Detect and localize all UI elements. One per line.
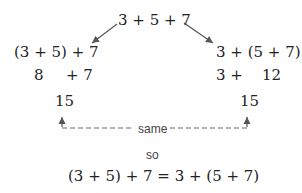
so-label: so xyxy=(146,147,159,163)
left-partial-b: + 7 xyxy=(66,67,93,83)
left-grouping: (3 + 5) + 7 xyxy=(14,44,99,60)
right-partial-a: 3 + xyxy=(216,67,243,83)
right-result: 15 xyxy=(240,93,259,109)
right-grouping: 3 + (5 + 7) xyxy=(216,44,301,60)
right-partial-b: 12 xyxy=(262,67,281,83)
top-expression: 3 + 5 + 7 xyxy=(118,12,191,28)
associative-property-diagram: 3 + 5 + 7 (3 + 5) + 7 8 + 7 15 3 + (5 + … xyxy=(0,0,302,193)
left-partial-a: 8 xyxy=(34,67,44,83)
same-label: same xyxy=(138,121,167,137)
arrow-left-icon xyxy=(92,24,117,43)
left-result: 15 xyxy=(55,93,74,109)
conclusion-equation: (3 + 5) + 7 = 3 + (5 + 7) xyxy=(68,168,259,184)
